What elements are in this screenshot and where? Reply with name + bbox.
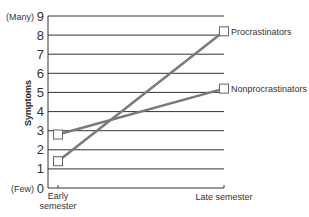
svg-text:7: 7 [37, 47, 44, 62]
marker-nonprocrastinators-late [220, 84, 229, 93]
svg-text:1: 1 [37, 161, 44, 176]
x-label-early-line1: Early [48, 191, 69, 201]
svg-text:9: 9 [37, 9, 44, 24]
marker-procrastinators-late [220, 27, 229, 36]
gridlines [48, 16, 224, 188]
svg-text:3: 3 [37, 123, 44, 138]
x-label-early-line2: semester [39, 201, 76, 211]
svg-text:4: 4 [37, 104, 44, 119]
svg-text:5: 5 [37, 85, 44, 100]
few-label: (Few) [11, 184, 34, 194]
svg-text:2: 2 [37, 142, 44, 157]
svg-text:0: 0 [37, 181, 44, 196]
series-label-procrastinators: Procrastinators [231, 27, 292, 37]
series-label-nonprocrastinators: Nonprocrastinators [231, 84, 308, 94]
marker-procrastinators-early [54, 157, 63, 166]
many-label: (Many) [6, 12, 34, 22]
marker-nonprocrastinators-early [54, 130, 63, 139]
y-axis-label: Symptoms [23, 80, 33, 126]
svg-text:6: 6 [37, 66, 44, 81]
svg-text:8: 8 [37, 28, 44, 43]
y-tick-labels: 9 8 7 6 5 4 3 2 1 0 [37, 9, 44, 196]
x-label-late: Late semester [195, 192, 252, 202]
line-chart: 9 8 7 6 5 4 3 2 1 0 (Many) (Few) Symptom… [0, 0, 309, 217]
